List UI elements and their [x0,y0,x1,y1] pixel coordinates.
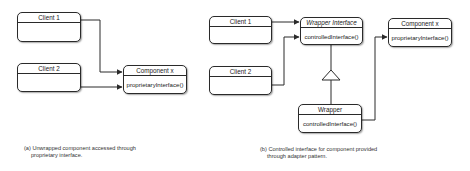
arrow-client1-to-component [81,20,122,72]
component-x-method: proprietaryInterface() [389,29,451,41]
wrapper-interface-method: controlledInterface() [301,28,362,40]
arrow-client2-to-wrapper-interface [272,37,299,85]
arrow-wrapper-to-component [362,37,387,120]
caption-b: (b) Controlled interface for component p… [260,146,377,160]
client1-box-a: Client 1 [17,12,81,42]
wrapper-interface-title: Wrapper Interface [301,18,362,28]
caption-a-line2: proprietary interface. [24,152,136,159]
client1-title: Client 1 [210,17,271,27]
wrapper-title: Wrapper [299,105,361,115]
caption-b-line2: through adapter pattern. [260,153,377,160]
component-x-method: proprietaryInterface() [124,76,186,88]
client2-box-b: Client 2 [209,66,272,95]
inheritance-triangle-icon [322,70,340,80]
client2-title: Client 2 [18,64,80,74]
component-x-box-a: Component x proprietaryInterface() [123,65,187,94]
caption-b-line1: (b) Controlled interface for component p… [260,146,377,153]
wrapper-interface-box: Wrapper Interface controlledInterface() [300,17,363,45]
caption-a-line1: (a) Unwrapped component accessed through [24,145,136,152]
client2-box-a: Client 2 [17,63,81,92]
wrapper-method: controlledInterface() [299,115,361,127]
client1-title: Client 1 [18,13,80,23]
caption-a: (a) Unwrapped component accessed through… [24,145,136,159]
client2-title: Client 2 [210,67,271,77]
wrapper-box: Wrapper controlledInterface() [298,104,362,133]
component-x-title: Component x [124,66,186,76]
client1-box-b: Client 1 [209,16,272,44]
component-x-title: Component x [389,19,451,29]
component-x-box-b: Component x proprietaryInterface() [388,18,452,47]
